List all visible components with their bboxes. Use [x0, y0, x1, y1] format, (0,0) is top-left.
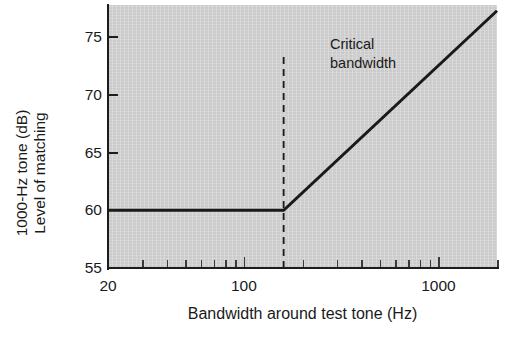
plot-area: Critical bandwidth: [108, 5, 497, 268]
y-tick-mark: [109, 94, 118, 96]
y-tick-label: 55: [66, 259, 102, 277]
chart-figure: Level of matching 1000-Hz tone (dB) 5560…: [0, 0, 512, 346]
y-axis-line: [107, 4, 109, 270]
y-tick-mark: [109, 36, 118, 38]
critical-bandwidth-annotation: Critical bandwidth: [330, 35, 396, 72]
y-tick-label: 75: [66, 28, 102, 46]
y-tick-mark: [109, 152, 118, 154]
y-axis-title-line-2: 1000-Hz tone (dB): [14, 110, 30, 237]
annotation-line-2: bandwidth: [330, 54, 396, 73]
y-axis-title-line-1: Level of matching: [32, 112, 48, 234]
data-line-matching-level: [108, 11, 497, 211]
x-tick-label: 100: [231, 277, 257, 295]
x-tick-label: 20: [99, 277, 116, 295]
x-axis-title: Bandwidth around test tone (Hz): [108, 305, 497, 323]
annotation-line-1: Critical: [330, 35, 396, 54]
x-axis-tick-labels: 201001000: [0, 277, 512, 301]
y-tick-label: 70: [66, 86, 102, 104]
x-tick-label: 1000: [421, 277, 455, 295]
x-axis-line: [107, 267, 499, 269]
y-tick-label: 60: [66, 201, 102, 219]
y-tick-label: 65: [66, 144, 102, 162]
data-series-layer: [108, 5, 497, 268]
y-tick-mark: [109, 209, 118, 211]
